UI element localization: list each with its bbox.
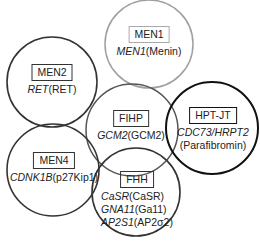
ap2s1-gene: AP2S1	[101, 216, 134, 228]
casr-protein: (CaSR)	[129, 190, 164, 202]
ga11-protein: (Ga11)	[135, 203, 167, 215]
parafibromin-protein: (Parafibromin)	[180, 139, 247, 151]
cdc73-gene-line: CDC73/HRPT2	[177, 126, 249, 139]
gcm2-protein: (GCM2)	[128, 129, 165, 141]
gna11-gene: GNA11	[101, 203, 135, 215]
men1-gene: MEN1	[117, 45, 146, 57]
men4-node: MEN4 CDNK1B(p27Kip1)	[10, 150, 98, 184]
casr-gene: CaSR	[101, 190, 129, 202]
gna11-gene-line: GNA11(Ga11)	[101, 203, 173, 216]
cdnk1b-gene: CDNK1B	[10, 171, 53, 183]
men2-label: MEN2	[31, 64, 72, 81]
hptjt-label: HPT-JT	[189, 107, 237, 124]
parafibromin-line: (Parafibromin)	[177, 139, 249, 152]
men1-gene-line: MEN1(Menin)	[117, 45, 182, 58]
hptjt-node: HPT-JT CDC73/HRPT2 (Parafibromin)	[177, 105, 249, 152]
ret-gene-line: RET(RET)	[28, 83, 77, 96]
ap2s2-protein: (AP2σ2)	[134, 216, 173, 228]
fihp-node: FIHP GCM2(GCM2)	[97, 108, 165, 142]
casr-gene-line: CaSR(CaSR)	[101, 190, 173, 203]
ap2s1-gene-line: AP2S1(AP2σ2)	[101, 216, 173, 229]
fhh-node: FHH CaSR(CaSR) GNA11(Ga11) AP2S1(AP2σ2)	[101, 169, 173, 229]
fhh-label: FHH	[120, 171, 154, 188]
men1-label: MEN1	[128, 26, 169, 43]
men1-node: MEN1 MEN1(Menin)	[117, 24, 182, 58]
ret-gene: RET	[28, 83, 49, 95]
men4-label: MEN4	[33, 152, 74, 169]
men1-protein: (Menin)	[146, 45, 182, 57]
men2-node: MEN2 RET(RET)	[28, 62, 77, 96]
p27kip1-protein: (p27Kip1)	[53, 171, 99, 183]
fihp-label: FIHP	[113, 110, 149, 127]
cdc73-gene: CDC73/HRPT2	[177, 126, 249, 138]
cdnk1b-gene-line: CDNK1B(p27Kip1)	[10, 171, 98, 184]
ret-protein: (RET)	[49, 83, 77, 95]
gcm2-gene: GCM2	[97, 129, 127, 141]
gcm2-gene-line: GCM2(GCM2)	[97, 129, 165, 142]
